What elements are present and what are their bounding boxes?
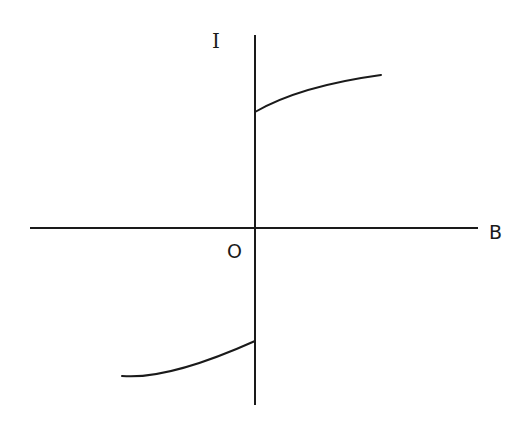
b-axis-label: B [489,221,502,243]
origin-label: O [227,240,242,262]
background [0,0,529,428]
i-axis-label: I [212,29,220,53]
magnetization-diagram: I O B [0,0,529,428]
